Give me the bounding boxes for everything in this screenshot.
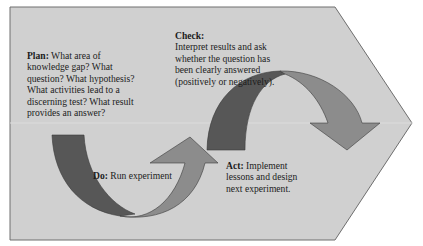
check-text: Interpret results and ask whether the qu… (175, 41, 274, 86)
act-title: Act: (226, 160, 244, 171)
check-title: Check: (175, 30, 204, 41)
check-label: Check: Interpret results and ask whether… (175, 30, 285, 87)
pdca-diagram: Plan: What area of knowledge gap? What q… (0, 0, 423, 246)
do-title: Do: (93, 170, 108, 181)
do-label: Do: Run experiment (93, 170, 183, 181)
plan-label: Plan: What area of knowledge gap? What q… (27, 50, 137, 118)
act-label: Act: Implement lessons and design next e… (226, 160, 306, 194)
plan-title: Plan: (27, 50, 49, 61)
do-text: Run experiment (108, 170, 172, 181)
